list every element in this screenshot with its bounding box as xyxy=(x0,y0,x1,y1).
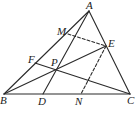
segment-EN-dashed xyxy=(81,46,106,94)
label-A: A xyxy=(85,0,93,11)
segment-AD xyxy=(43,11,89,94)
label-D: D xyxy=(37,95,46,107)
label-F: F xyxy=(27,53,35,65)
label-C: C xyxy=(127,94,135,106)
geometry-figure: A B C D N E M F P xyxy=(0,0,140,124)
label-B: B xyxy=(0,94,7,106)
segment-AB xyxy=(4,11,89,94)
label-P: P xyxy=(50,56,58,68)
label-M: M xyxy=(56,25,67,37)
segment-CF xyxy=(35,63,130,94)
segment-AC xyxy=(89,11,130,94)
label-E: E xyxy=(107,37,115,49)
segment-ME-dashed xyxy=(68,34,106,46)
label-N: N xyxy=(74,95,83,107)
